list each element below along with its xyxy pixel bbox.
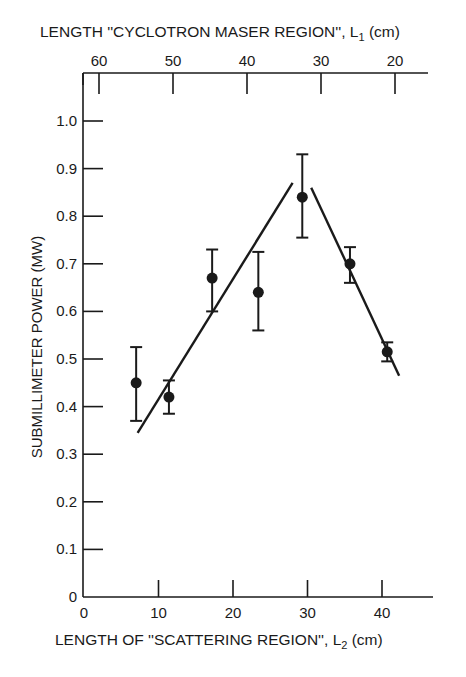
y-tick-label: 0.9 [56, 160, 77, 177]
y-tick-label: 0.6 [56, 302, 77, 319]
point-marker [131, 377, 142, 388]
point-marker [297, 192, 308, 203]
x-axis-title: LENGTH OF ''SCATTERING REGION'', L2 (cm) [55, 631, 383, 651]
trend-lines [138, 183, 399, 433]
top-tick-label: 50 [165, 52, 182, 69]
data-point [206, 250, 218, 312]
top-tick-label: 30 [313, 52, 330, 69]
chart: LENGTH ''CYCLOTRON MASER REGION'', L1 (c… [0, 0, 466, 677]
y-tick-label: 0.8 [56, 207, 77, 224]
top-axis: 6050403020 [83, 52, 428, 94]
y-tick-label: 0 [69, 588, 77, 605]
data-point [252, 252, 264, 331]
y-tick-label: 0.3 [56, 445, 77, 462]
y-tick-label: 0.5 [56, 350, 77, 367]
x-tick-label: 40 [374, 604, 391, 621]
y-tick-label: 0.1 [56, 540, 77, 557]
x-tick-label: 30 [299, 604, 316, 621]
data-point [296, 154, 308, 237]
point-marker [344, 258, 355, 269]
y-tick-label: 0.2 [56, 493, 77, 510]
top-tick-label: 60 [91, 52, 108, 69]
data-points [130, 154, 393, 421]
x-axis: 010203040 [80, 580, 433, 621]
top-tick-label: 40 [239, 52, 256, 69]
point-marker [207, 273, 218, 284]
data-point [130, 347, 142, 421]
point-marker [253, 287, 264, 298]
top-tick-label: 20 [387, 52, 404, 69]
y-tick-label: 1.0 [56, 112, 77, 129]
top-axis-title: LENGTH ''CYCLOTRON MASER REGION'', L1 (c… [40, 23, 400, 43]
trend-line [138, 183, 293, 433]
x-tick-label: 20 [225, 604, 242, 621]
point-marker [163, 392, 174, 403]
x-tick-label: 10 [150, 604, 167, 621]
x-tick-label: 0 [80, 604, 88, 621]
y-tick-label: 0.7 [56, 255, 77, 272]
data-point [163, 380, 175, 413]
y-axis-title: SUBMILLIMETER POWER (MW) [28, 236, 45, 459]
y-tick-label: 0.4 [56, 398, 77, 415]
y-axis: 00.10.20.30.40.50.60.70.80.91.0 [56, 73, 103, 605]
point-marker [382, 346, 393, 357]
